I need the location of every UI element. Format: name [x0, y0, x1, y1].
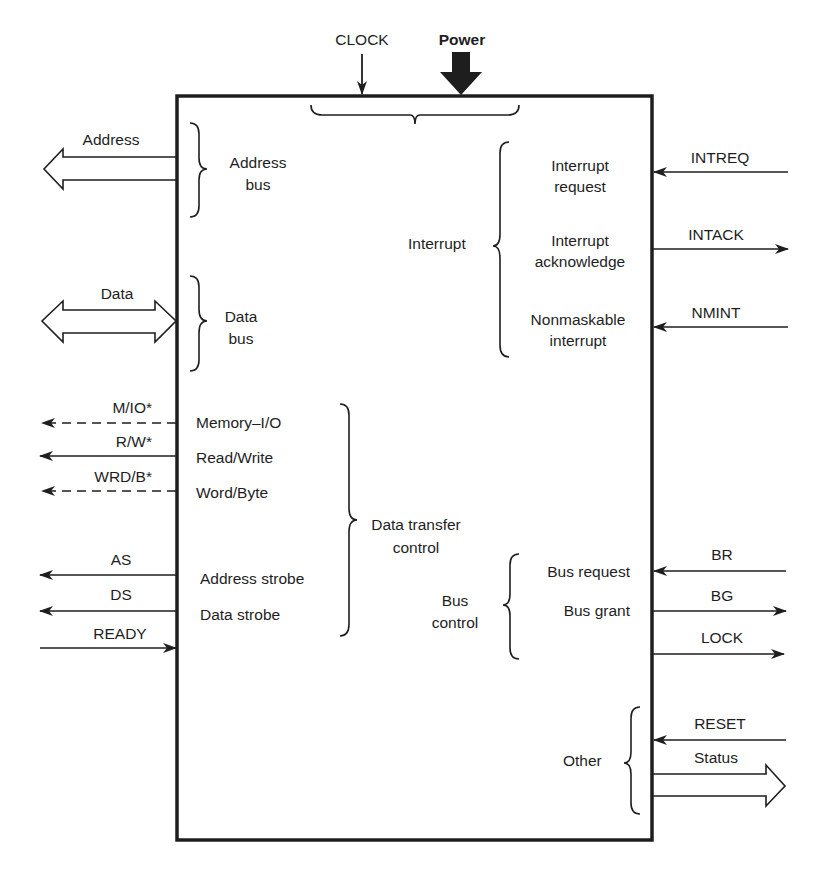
- as-label: AS: [96, 552, 146, 568]
- wrd-b-label: WRD/B*: [60, 469, 152, 485]
- address-bus-brace: [190, 123, 207, 217]
- intreq-label: INTREQ: [680, 150, 760, 166]
- status-bus-arrow: [652, 765, 785, 806]
- data-signal-label: Data: [72, 286, 162, 302]
- nonmaskable-interrupt-label: Nonmaskableinterrupt: [512, 309, 644, 351]
- reset-label: RESET: [680, 716, 760, 732]
- address-bus-arrow: [44, 149, 176, 189]
- br-label: BR: [692, 547, 752, 563]
- intack-label: INTACK: [676, 227, 756, 243]
- bg-label: BG: [692, 588, 752, 604]
- interrupt-request-label: Interruptrequest: [520, 155, 640, 197]
- data-transfer-control-brace: [340, 404, 357, 636]
- data-bus-brace: [190, 276, 207, 371]
- lock-label: LOCK: [682, 630, 762, 646]
- r-w-label: R/W*: [60, 434, 152, 450]
- other-brace: [624, 707, 640, 814]
- ready-label: READY: [80, 626, 160, 642]
- address-bus-group-label: Addressbus: [218, 152, 298, 196]
- bus-control-group-label: Buscontrol: [420, 590, 490, 634]
- bus-grant-label: Bus grant: [500, 603, 630, 619]
- data-strobe-label: Data strobe: [200, 607, 280, 623]
- m-io-label: M/IO*: [60, 400, 152, 416]
- interrupt-group-label: Interrupt: [408, 236, 466, 252]
- status-label: Status: [676, 750, 756, 766]
- nmint-label: NMINT: [676, 305, 756, 321]
- read-write-label: Read/Write: [196, 450, 273, 466]
- power-arrow: [440, 52, 482, 95]
- interrupt-brace: [493, 142, 509, 357]
- data-bus-group-label: Databus: [210, 306, 272, 350]
- data-bus-arrow: [42, 301, 176, 342]
- power-clock-brace: [311, 105, 519, 124]
- memory-io-label: Memory–I/O: [196, 415, 281, 431]
- word-byte-label: Word/Byte: [196, 485, 268, 501]
- address-signal-label: Address: [66, 132, 156, 148]
- ds-label: DS: [96, 587, 146, 603]
- address-strobe-label: Address strobe: [200, 571, 304, 587]
- interrupt-acknowledge-label: Interruptacknowledge: [516, 230, 644, 272]
- processor-box: [177, 96, 652, 840]
- power-label: Power: [430, 32, 494, 48]
- other-group-label: Other: [563, 753, 602, 769]
- data-transfer-control-label: Data transfercontrol: [356, 513, 476, 559]
- clock-label: CLOCK: [326, 32, 398, 48]
- bus-request-label: Bus request: [500, 564, 630, 580]
